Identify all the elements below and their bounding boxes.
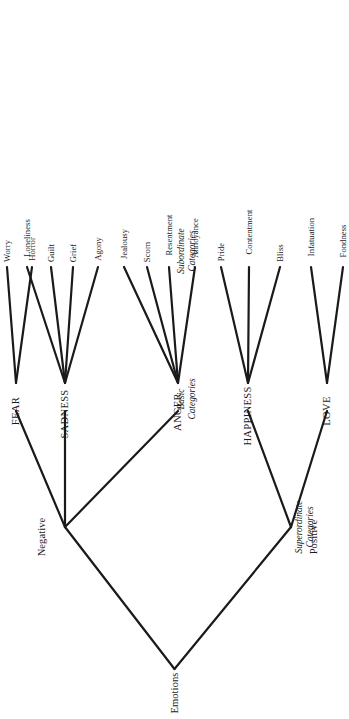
node-annoyance: Annoyance — [191, 218, 200, 258]
edge-root-negative — [65, 527, 175, 669]
node-negative: Negative — [37, 518, 48, 557]
edge-negative-fear — [16, 411, 65, 527]
node-resentment: Resentment — [165, 214, 174, 255]
node-love: LOVE — [322, 396, 333, 425]
node-bliss: Bliss — [276, 244, 285, 261]
edge-sadness-guilt — [51, 267, 65, 383]
node-agony: Agony — [94, 237, 103, 261]
edge-fear-worry — [7, 267, 16, 383]
edge-sadness-loneliness — [27, 267, 65, 383]
column-heading-subordinate-line1: Subordinate — [176, 228, 187, 273]
edge-happiness-contentment — [248, 267, 249, 383]
node-fear: FEAR — [11, 397, 22, 425]
node-contentment: Contentment — [245, 210, 254, 255]
node-guilt: Guilt — [47, 244, 56, 262]
node-horror: Horror — [28, 237, 37, 261]
column-heading-superordinate-line1: Superordinate — [294, 501, 305, 554]
edge-negative-anger — [65, 411, 178, 527]
edge-love-fondness — [327, 267, 343, 383]
node-scorn: Scorn — [143, 242, 152, 262]
column-heading-basic-line2: Categories — [187, 378, 198, 419]
edge-anger-annoyance — [178, 267, 195, 383]
figure-rotator: Superordinate Categories Basic Categorie… — [0, 0, 349, 719]
node-sadness: SADNESS — [60, 389, 71, 438]
node-happiness: HAPPINESS — [243, 386, 254, 445]
edge-positive-happiness — [248, 411, 291, 527]
node-grief: Grief — [69, 244, 78, 262]
node-infatuation: Infatuation — [307, 218, 316, 256]
emotion-hierarchy-figure: Superordinate Categories Basic Categorie… — [0, 0, 349, 719]
node-positive: Positive — [309, 520, 320, 555]
edge-happiness-bliss — [248, 267, 280, 383]
edge-love-infatuation — [311, 267, 327, 383]
edge-happiness-pride — [221, 267, 248, 383]
node-anger: ANGER — [173, 393, 184, 431]
tree-edges — [0, 0, 349, 719]
node-pride: Pride — [217, 243, 226, 261]
node-emotions: Emotions — [169, 672, 180, 713]
node-fondness: Fondness — [339, 225, 348, 258]
node-jealousy: Jealousy — [120, 229, 129, 259]
edge-fear-horror — [16, 267, 32, 383]
node-worry: Worry — [3, 240, 12, 262]
edge-root-positive — [175, 527, 292, 669]
